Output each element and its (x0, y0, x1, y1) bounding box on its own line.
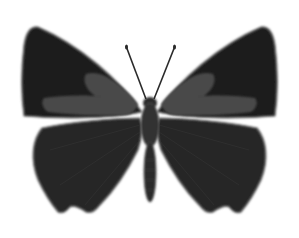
hindwing-left (33, 118, 142, 213)
antenna-right (154, 45, 176, 100)
hindwing-right (157, 118, 266, 213)
abdomen (144, 142, 156, 202)
antenna-left (125, 45, 146, 100)
butterfly-body (141, 97, 159, 202)
butterfly-image (0, 0, 299, 238)
thorax (141, 103, 159, 147)
butterfly-illustration (0, 0, 299, 238)
